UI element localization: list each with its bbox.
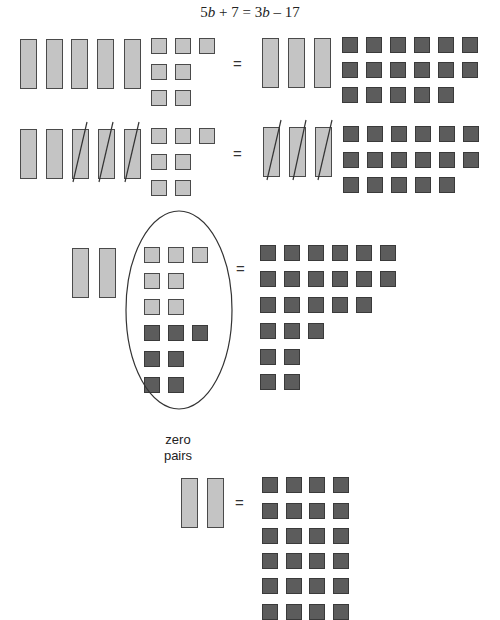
negative-unit-tile [380,245,396,261]
negative-unit-tile [309,553,325,569]
negative-unit-tile [391,177,407,193]
negative-unit-tile [343,126,359,142]
negative-unit-tile [309,528,325,544]
variable-bar [181,478,198,528]
negative-unit-tile [343,177,359,193]
negative-unit-tile [462,62,478,78]
negative-unit-tile [284,349,300,365]
negative-unit-tile [333,604,349,620]
negative-unit-tile [262,553,278,569]
variable-bar-crossed [263,127,280,177]
negative-unit-tile [367,126,383,142]
negative-unit-tile [342,87,358,103]
negative-unit-tile [333,528,349,544]
negative-unit-tile [308,271,324,287]
negative-unit-tile [262,503,278,519]
negative-unit-tile [144,351,160,367]
negative-unit-tile [462,37,478,53]
variable-bar-crossed [72,129,89,179]
negative-unit-tile [463,126,479,142]
negative-unit-tile [286,604,302,620]
negative-unit-tile [309,477,325,493]
negative-unit-tile [308,245,324,261]
negative-unit-tile [333,477,349,493]
negative-unit-tile [367,177,383,193]
negative-unit-tile [342,62,358,78]
negative-unit-tile [333,578,349,594]
negative-unit-tile [332,271,348,287]
negative-unit-tile [333,553,349,569]
negative-unit-tile [439,177,455,193]
negative-unit-tile [286,553,302,569]
zero-pairs-label: zero pairs [148,432,208,464]
positive-unit-tile [175,128,191,144]
negative-unit-tile [390,62,406,78]
negative-unit-tile [144,325,160,341]
negative-unit-tile [284,323,300,339]
negative-unit-tile [144,377,160,393]
variable-bar [314,38,331,88]
negative-unit-tile [168,325,184,341]
label-line: zero [148,432,208,448]
variable-bar [72,248,89,298]
positive-unit-tile [151,154,167,170]
positive-unit-tile [151,38,167,54]
negative-unit-tile [262,604,278,620]
negative-unit-tile [438,87,454,103]
negative-unit-tile [260,323,276,339]
equation-end: – 17 [270,4,300,20]
negative-unit-tile [438,62,454,78]
negative-unit-tile [356,297,372,313]
variable-bar-crossed [98,129,115,179]
negative-unit-tile [390,87,406,103]
negative-unit-tile [439,152,455,168]
negative-unit-tile [286,578,302,594]
negative-unit-tile [463,152,479,168]
negative-unit-tile [366,87,382,103]
equals-sign: = [233,145,242,162]
negative-unit-tile [415,126,431,142]
variable-bar [97,39,114,89]
negative-unit-tile [192,325,208,341]
negative-unit-tile [168,351,184,367]
variable-bar [262,38,279,88]
equation-title: 5b + 7 = 3b – 17 [0,4,500,21]
positive-unit-tile [144,299,160,315]
variable-bar [124,39,141,89]
variable-bar [207,478,224,528]
variable-bar [99,248,116,298]
negative-unit-tile [366,62,382,78]
positive-unit-tile [144,247,160,263]
negative-unit-tile [438,37,454,53]
negative-unit-tile [260,297,276,313]
positive-unit-tile [151,64,167,80]
negative-unit-tile [439,126,455,142]
negative-unit-tile [262,477,278,493]
negative-unit-tile [260,271,276,287]
variable-bar [46,39,63,89]
negative-unit-tile [286,503,302,519]
positive-unit-tile [175,180,191,196]
positive-unit-tile [168,247,184,263]
positive-unit-tile [192,247,208,263]
positive-unit-tile [168,273,184,289]
equals-sign: = [233,55,242,72]
positive-unit-tile [175,154,191,170]
equals-sign: = [235,494,244,511]
negative-unit-tile [414,87,430,103]
negative-unit-tile [332,297,348,313]
positive-unit-tile [175,90,191,106]
negative-unit-tile [309,604,325,620]
variable-bar [46,129,63,179]
positive-unit-tile [175,64,191,80]
negative-unit-tile [390,37,406,53]
negative-unit-tile [356,245,372,261]
negative-unit-tile [333,503,349,519]
negative-unit-tile [260,349,276,365]
negative-unit-tile [415,152,431,168]
negative-unit-tile [286,528,302,544]
negative-unit-tile [260,245,276,261]
negative-unit-tile [284,374,300,390]
positive-unit-tile [168,299,184,315]
negative-unit-tile [286,477,302,493]
